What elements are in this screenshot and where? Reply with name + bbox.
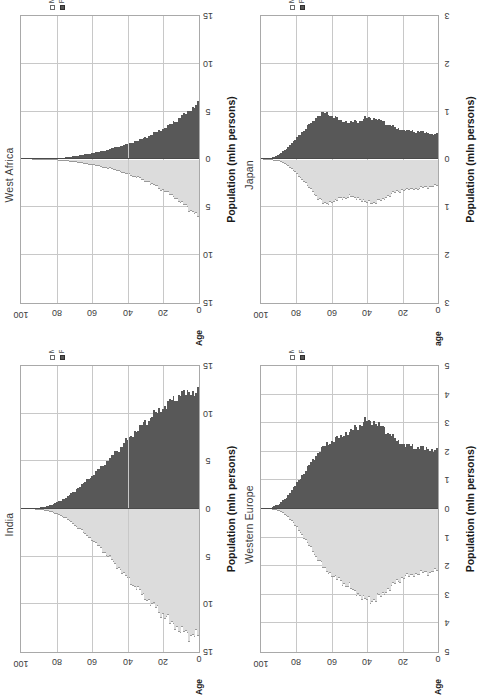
bar-male: [373, 509, 375, 600]
bar-male: [273, 160, 275, 161]
bar-male: [188, 160, 190, 212]
bar-male: [347, 509, 349, 587]
age-bar-row: [333, 16, 335, 303]
bar-male: [349, 509, 351, 583]
bar-female: [434, 134, 436, 159]
bar-female: [399, 444, 401, 509]
bar-female: [350, 121, 352, 159]
bar-male: [417, 509, 419, 575]
age-bar-row: [129, 16, 131, 303]
bar-male: [310, 509, 312, 547]
bar-female: [373, 421, 375, 509]
bar-male: [280, 509, 282, 512]
bar-male: [171, 509, 173, 622]
x-tick-label: 15: [203, 298, 213, 308]
age-bar-row: [194, 16, 196, 303]
age-bar-row: [349, 16, 351, 303]
plot-area: 15105051015100806040200MaleFemale: [20, 365, 200, 653]
age-bar-row: [408, 16, 410, 303]
age-bar-row: [53, 366, 55, 652]
x-tick-label: 0: [203, 506, 213, 511]
bar-female: [146, 138, 148, 160]
bar-male: [130, 509, 132, 585]
bar-female: [293, 487, 295, 509]
age-bar-row: [33, 16, 35, 303]
age-bar-row: [342, 366, 344, 652]
age-bar-row: [382, 366, 384, 652]
age-bar-row: [106, 16, 108, 303]
bar-female: [72, 492, 74, 509]
bar-male: [392, 160, 394, 193]
bar-female: [192, 107, 194, 159]
age-bar-row: [359, 366, 361, 652]
age-bar-row: [277, 16, 279, 303]
age-bar-row: [65, 16, 67, 303]
bar-female: [121, 447, 123, 509]
bar-male: [157, 509, 159, 606]
age-bar-row: [363, 16, 365, 303]
bar-female: [399, 130, 401, 159]
bar-male: [125, 160, 127, 174]
age-bar-row: [403, 366, 405, 652]
age-bar-row: [272, 366, 274, 652]
bar-male: [410, 160, 412, 190]
age-bar-row: [180, 16, 182, 303]
age-bar-row: [387, 366, 389, 652]
bar-female: [77, 488, 79, 509]
age-bar-row: [296, 366, 298, 652]
bar-female: [326, 112, 328, 160]
y-tick-label: 80: [52, 308, 62, 318]
legend-label: Male: [287, 350, 297, 353]
age-bar-row: [76, 366, 78, 652]
legend-swatch-female-icon: [300, 5, 305, 10]
age-bar-row: [419, 366, 421, 652]
age-bar-row: [392, 16, 394, 303]
age-bar-row: [287, 16, 289, 303]
bar-female: [100, 466, 102, 509]
bar-male: [60, 509, 62, 516]
bar-male: [195, 509, 197, 630]
age-bar-row: [403, 16, 405, 303]
bar-male: [195, 160, 197, 213]
legend-label: Male: [47, 350, 57, 353]
age-bar-row: [171, 366, 173, 652]
bar-male: [399, 509, 401, 583]
bar-female: [144, 420, 146, 509]
age-bar-row: [293, 16, 295, 303]
bar-female: [343, 436, 345, 509]
bar-male: [192, 160, 194, 212]
bar-male: [273, 509, 275, 510]
age-bar-row: [99, 366, 101, 652]
age-bar-row: [62, 366, 64, 652]
age-bar-row: [305, 366, 307, 652]
bar-male: [315, 509, 317, 557]
figure-canvas: West Africa15105051015100806040200MaleFe…: [0, 0, 479, 699]
age-bar-row: [350, 366, 352, 652]
bar-male: [53, 509, 55, 513]
bar-male: [93, 160, 95, 166]
age-bar-row: [382, 16, 384, 303]
bar-female: [398, 128, 400, 159]
bar-female: [301, 475, 303, 509]
bar-male: [296, 160, 298, 174]
bar-female: [422, 131, 424, 159]
bar-male: [91, 160, 93, 166]
bar-male: [188, 509, 190, 642]
bar-female: [188, 111, 190, 160]
bar-male: [387, 509, 389, 589]
bar-male: [84, 160, 86, 164]
age-bar-row: [137, 366, 139, 652]
age-bar-row: [130, 16, 132, 303]
age-bar-row: [91, 16, 93, 303]
bar-male: [305, 160, 307, 184]
bar-male: [377, 160, 379, 201]
age-bar-row: [58, 16, 60, 303]
bar-female: [289, 493, 291, 509]
bar-male: [95, 509, 97, 543]
bar-male: [396, 509, 398, 580]
age-bar-row: [76, 16, 78, 303]
x-tick-label: 5: [203, 205, 213, 210]
bar-male: [415, 509, 417, 574]
bar-female: [408, 444, 410, 509]
age-bar-row: [164, 16, 166, 303]
